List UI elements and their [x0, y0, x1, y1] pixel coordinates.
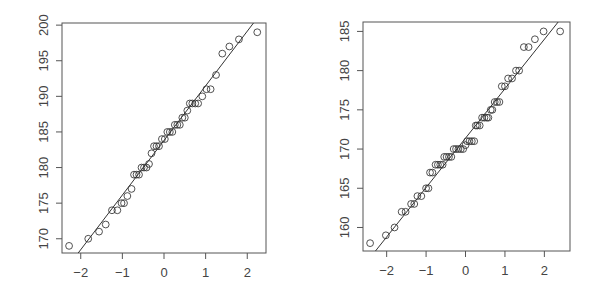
data-point [102, 221, 109, 228]
x-tick-label: −2 [73, 265, 88, 280]
qq-plots-canvas: −2−1012170175180185190195200 −2−10121601… [0, 0, 601, 304]
qq-reference-line [375, 22, 558, 252]
data-point [367, 240, 374, 247]
data-point [462, 142, 469, 149]
data-point [96, 228, 103, 235]
data-point [489, 106, 496, 113]
data-point [540, 28, 547, 35]
data-point [398, 208, 405, 215]
x-tick-label: 1 [202, 265, 209, 280]
data-point [254, 29, 261, 36]
x-tick-label: −1 [115, 265, 130, 280]
data-point [199, 93, 206, 100]
y-tick-label: 180 [36, 157, 51, 179]
y-tick-label: 200 [36, 14, 51, 36]
y-tick-label: 170 [337, 138, 352, 160]
data-point [226, 43, 233, 50]
y-tick-label: 185 [337, 21, 352, 43]
y-tick-label: 185 [36, 121, 51, 143]
plot-frame [62, 23, 266, 253]
y-tick-label: 190 [36, 85, 51, 107]
data-point [219, 50, 226, 57]
y-tick-label: 170 [36, 228, 51, 250]
y-tick-label: 160 [337, 217, 352, 239]
qq-plot-figure: −2−1012170175180185190195200 −2−10121601… [0, 0, 601, 304]
data-point [207, 86, 214, 93]
x-tick-label: 2 [541, 263, 548, 278]
data-point [532, 36, 539, 43]
qq-plot-right: −2−1012160165170175180185 [337, 21, 570, 278]
y-tick-label: 195 [36, 50, 51, 72]
data-point [509, 75, 516, 82]
y-tick-label: 175 [36, 192, 51, 214]
y-tick-label: 165 [337, 177, 352, 199]
data-point [66, 242, 73, 249]
data-point [557, 28, 564, 35]
y-tick-label: 175 [337, 99, 352, 121]
data-point [402, 208, 409, 215]
x-tick-label: 0 [462, 263, 469, 278]
x-tick-label: 0 [160, 265, 167, 280]
qq-plot-left: −2−1012170175180185190195200 [36, 14, 266, 280]
data-point [124, 193, 131, 200]
y-tick-label: 180 [337, 60, 352, 82]
data-point [525, 44, 532, 51]
data-point [505, 75, 512, 82]
x-tick-label: 2 [244, 265, 251, 280]
x-tick-label: −2 [379, 263, 394, 278]
x-tick-label: −1 [419, 263, 434, 278]
x-tick-label: 1 [501, 263, 508, 278]
data-point [485, 114, 492, 121]
data-point [85, 235, 92, 242]
data-point [128, 186, 135, 193]
